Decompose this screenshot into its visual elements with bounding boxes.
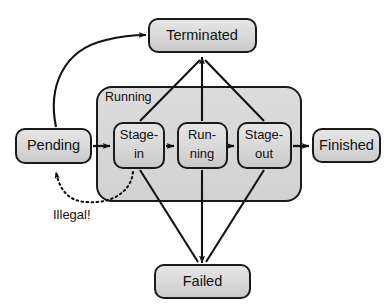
state-stage-out[interactable]: Stage- out — [238, 123, 291, 168]
state-terminated-label: Terminated — [166, 27, 238, 43]
state-stage-out-label-line2: out — [255, 146, 273, 161]
state-stage-out-label-line1: Stage- — [245, 127, 283, 142]
illegal-annotation-label: Illegal! — [53, 207, 91, 222]
state-running-inner-label-line1: Run- — [188, 127, 216, 142]
state-diagram: Running Stage- in — [0, 0, 392, 306]
state-running-inner[interactable]: Run- ning — [178, 123, 227, 168]
state-stage-in[interactable]: Stage- in — [114, 123, 164, 168]
state-failed-label: Failed — [183, 273, 223, 289]
state-stage-in-label-line1: Stage- — [120, 127, 158, 142]
state-pending-label: Pending — [27, 137, 80, 153]
state-stage-in-label-line2: in — [134, 146, 144, 161]
state-finished[interactable]: Finished — [313, 129, 380, 162]
state-failed[interactable]: Failed — [155, 265, 250, 298]
group-running-label: Running — [105, 90, 152, 104]
state-diagram-canvas: Running Stage- in — [0, 0, 392, 306]
state-running-inner-label-line2: ning — [190, 146, 215, 161]
state-terminated[interactable]: Terminated — [149, 19, 256, 52]
state-pending[interactable]: Pending — [16, 129, 91, 163]
state-finished-label: Finished — [319, 137, 374, 153]
